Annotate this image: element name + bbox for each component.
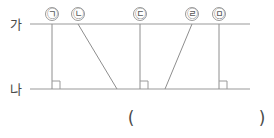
segment-rieul: [165, 24, 192, 89]
segment-nieun: [78, 24, 117, 89]
point-label-giyeok: ㉠: [47, 8, 58, 21]
line-label-ga: 가: [10, 17, 22, 32]
line-label-na: 나: [10, 82, 22, 97]
point-label-nieun: ㉡: [73, 8, 84, 21]
geometry-diagram: ㉠ ㉡ ㉢ ㉣ ㉤ 가 나 ( ): [0, 0, 274, 138]
point-label-mieum: ㉤: [214, 8, 225, 21]
right-angle-mark-giyeok: [52, 81, 60, 89]
answer-close-paren: ): [259, 108, 266, 128]
point-label-digeut: ㉢: [135, 8, 146, 21]
answer-open-paren: (: [128, 108, 135, 128]
geometry-figure-container: ㉠ ㉡ ㉢ ㉣ ㉤ 가 나 ( ): [0, 0, 274, 138]
right-angle-mark-digeut: [140, 81, 148, 89]
right-angle-mark-mieum: [219, 81, 227, 89]
point-label-rieul: ㉣: [187, 8, 198, 21]
